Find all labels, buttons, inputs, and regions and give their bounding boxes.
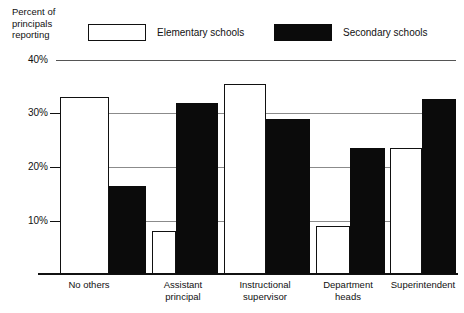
bar-elementary-superintendent [390,148,422,274]
category-label-assistant-principal: Assistant principal [140,279,226,302]
bar-elementary-no-others [60,97,109,274]
category-label-department-heads: Department heads [306,279,390,302]
bar-elementary-department-heads [316,226,350,274]
bars-layer [0,0,464,313]
category-label-superintendent: Superintendent [381,279,464,291]
bar-chart: Percent of principals reporting Elementa… [0,0,464,313]
bar-secondary-superintendent [422,99,456,274]
category-label-no-others: No others [44,279,134,291]
bar-secondary-instructional-supervisor [266,119,310,274]
bar-secondary-department-heads [350,148,385,274]
category-label-instructional-supervisor: Instructional supervisor [219,279,311,302]
bar-secondary-no-others [109,186,146,274]
bar-elementary-instructional-supervisor [224,84,266,274]
bar-secondary-assistant-principal [176,103,218,274]
bar-elementary-assistant-principal [152,231,176,274]
